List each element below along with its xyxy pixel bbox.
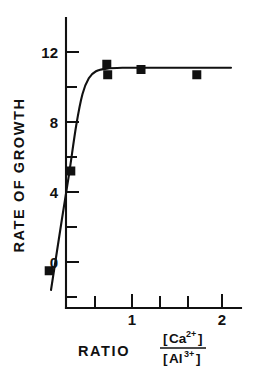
chart-figure: 12 8 4 0 1 2 RATE OF GROWTH RATIO xyxy=(0,0,267,383)
numerator-charge: 2+ xyxy=(186,329,196,339)
numerator-element: Ca xyxy=(169,331,187,346)
numerator-bracket-open: [ xyxy=(163,331,168,346)
data-point-markers xyxy=(45,60,202,276)
y-tick-label-8: 8 xyxy=(50,114,58,131)
y-axis-title: RATE OF GROWTH xyxy=(11,97,27,252)
y-tick-label-4: 4 xyxy=(50,184,59,201)
denominator-element: Al xyxy=(169,351,183,366)
data-point-marker xyxy=(137,65,146,74)
axis-lines xyxy=(66,18,241,308)
numerator-bracket-close: ] xyxy=(198,331,203,346)
fraction-numerator: [ Ca 2+ ] xyxy=(163,329,203,346)
x-axis-ratio-word: RATIO xyxy=(78,343,130,359)
x-axis-tick-labels: 1 2 xyxy=(128,311,226,328)
data-point-marker xyxy=(102,60,111,69)
data-point-marker xyxy=(45,266,54,275)
denominator-bracket-open: [ xyxy=(163,351,168,366)
x-axis-ticks xyxy=(95,295,222,308)
y-axis-tick-labels: 12 8 4 0 xyxy=(41,44,58,271)
x-axis-caption: RATIO [ Ca 2+ ] [ Al 3+ ] xyxy=(78,329,206,366)
x-tick-label-1: 1 xyxy=(128,311,136,328)
data-point-marker xyxy=(192,70,201,79)
data-point-marker xyxy=(103,70,112,79)
x-tick-label-2: 2 xyxy=(218,311,226,328)
fraction-denominator: [ Al 3+ ] xyxy=(163,349,201,366)
y-tick-label-12: 12 xyxy=(41,44,58,61)
denominator-charge: 3+ xyxy=(184,349,194,359)
denominator-bracket-close: ] xyxy=(196,351,201,366)
fitted-saturation-curve xyxy=(51,68,231,290)
growth-rate-vs-ratio-chart: 12 8 4 0 1 2 RATE OF GROWTH RATIO xyxy=(0,0,267,383)
data-point-marker xyxy=(66,167,75,176)
